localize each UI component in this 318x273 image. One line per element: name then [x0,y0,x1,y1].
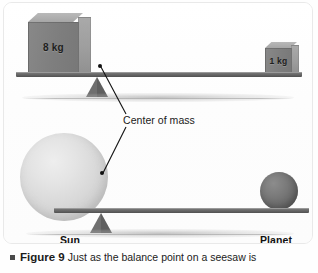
square-bullet-icon [10,255,15,260]
figure-screenshot: 8 kg 1 kg [0,0,318,273]
caption-text: Just as the balance point on a seesaw is [68,251,257,263]
label-planet: Planet [260,234,292,244]
caption-figure-number: Figure 9 [20,251,65,263]
label-sun: Sun [60,234,80,244]
leader-line-top [101,67,126,114]
figure-caption: Figure 9Just as the balance point on a s… [10,250,314,264]
illustration-panel: 8 kg 1 kg [3,2,313,244]
leader-line-bottom [103,127,126,173]
center-of-mass-label: Center of mass [123,114,195,126]
